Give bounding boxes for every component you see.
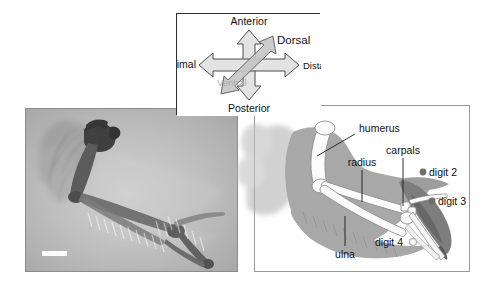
compass-label-posterior: Posterior	[228, 102, 271, 114]
label-humerus: humerus	[359, 122, 400, 134]
label-carpals: carpals	[386, 144, 420, 156]
label-ulna: ulna	[335, 248, 355, 260]
label-digit4: digit 4	[375, 236, 403, 248]
figure-container: humerus radius carpals ulna digit 2 digi…	[0, 0, 488, 288]
xray-panel	[25, 108, 238, 272]
label-digit2: digit 2	[429, 166, 457, 178]
compass-label-distal: Distal	[303, 60, 321, 71]
diagram-panel: humerus radius carpals ulna digit 2 digi…	[254, 105, 470, 272]
orientation-compass-panel: Anterior Posterior Proximal Distal Dorsa…	[176, 13, 320, 115]
film-grain	[26, 109, 237, 271]
compass-label-ventral: Ventral	[217, 77, 247, 88]
compass-label-proximal: Proximal	[177, 58, 196, 70]
digit3-marker-icon	[429, 198, 436, 205]
wing-diagram: humerus radius carpals ulna digit 2 digi…	[255, 106, 469, 271]
label-radius: radius	[348, 156, 377, 168]
compass-label-dorsal: Dorsal	[277, 34, 310, 46]
xray-image	[26, 109, 237, 271]
digit2-marker-icon	[420, 169, 427, 176]
orientation-compass: Anterior Posterior Proximal Distal Dorsa…	[177, 14, 321, 116]
compass-label-anterior: Anterior	[231, 15, 268, 27]
label-digit3: digit 3	[438, 195, 466, 207]
